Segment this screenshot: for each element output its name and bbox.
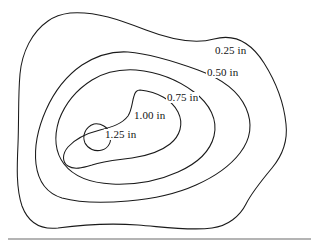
contour-label-1.25: 1.25 in — [104, 129, 137, 140]
contour-plot-svg — [0, 0, 320, 248]
contour-label-0.75: 0.75 in — [166, 92, 199, 103]
contour-map-figure: 0.25 in 0.50 in 0.75 in 1.00 in 1.25 in — [0, 0, 320, 248]
contour-line-0.75 — [56, 70, 215, 184]
contour-label-0.50: 0.50 in — [206, 67, 239, 78]
contour-label-1.00: 1.00 in — [133, 110, 166, 121]
contour-label-0.25: 0.25 in — [214, 45, 247, 56]
